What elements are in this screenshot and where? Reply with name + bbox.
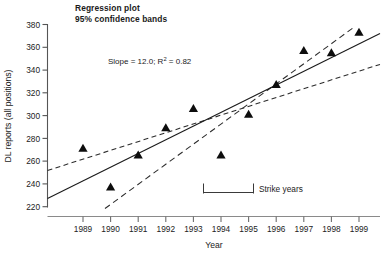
x-ticklabel: 1989	[74, 224, 93, 234]
y-ticklabel: 300	[26, 111, 40, 121]
x-ticklabel: 1994	[212, 224, 231, 234]
x-axis-ticks	[83, 217, 359, 223]
x-ticklabel: 1995	[239, 224, 258, 234]
regression-line	[48, 34, 381, 199]
legend-strike-years: Strike years	[204, 184, 303, 195]
data-point-marker	[299, 46, 308, 54]
x-ticklabel: 1998	[322, 224, 341, 234]
y-axis-ticks	[43, 25, 48, 207]
data-point-marker	[244, 110, 253, 118]
data-point-marker	[216, 151, 225, 159]
y-ticklabel: 340	[26, 65, 40, 75]
annotation-main: Slope = 12.0; R	[108, 57, 164, 66]
lower-confidence-band	[105, 27, 355, 209]
regression-plot-figure: Regression plot 95% confidence bands DL …	[0, 0, 392, 257]
y-axis: 380 360 340 320 300 280 260 240 220	[26, 20, 47, 212]
data-point-marker	[106, 182, 115, 190]
y-ticklabel: 360	[26, 42, 40, 52]
y-ticklabel: 380	[26, 20, 40, 30]
chart-title: Regression plot	[75, 3, 140, 13]
x-ticklabel: 1990	[101, 224, 120, 234]
y-axis-label: DL reports (all positions)	[3, 69, 13, 162]
x-ticklabel: 1992	[157, 224, 176, 234]
y-ticklabel: 320	[26, 88, 40, 98]
upper-confidence-band	[48, 64, 381, 170]
data-point-marker	[189, 104, 198, 112]
x-ticklabel: 1991	[129, 224, 148, 234]
x-axis-ticklabels: 1989 1990 1991 1992 1993 1994 1995 1996 …	[74, 224, 369, 234]
y-ticklabel: 280	[26, 134, 40, 144]
annotation-tail: = 0.82	[167, 57, 192, 66]
chart-subtitle: 95% confidence bands	[75, 14, 168, 24]
chart-canvas: Regression plot 95% confidence bands DL …	[0, 0, 392, 257]
legend-label-strike-years: Strike years	[259, 184, 303, 194]
x-ticklabel: 1997	[295, 224, 314, 234]
y-axis-ticklabels: 380 360 340 320 300 280 260 240 220	[26, 20, 40, 212]
data-point-marker	[327, 48, 336, 56]
slope-r2-annotation: Slope = 12.0; R2 = 0.82	[108, 56, 192, 66]
data-point-marker	[78, 144, 87, 152]
x-axis: 1989 1990 1991 1992 1993 1994 1995 1996 …	[48, 217, 381, 251]
data-point-marker	[161, 123, 170, 131]
y-ticklabel: 220	[26, 202, 40, 212]
x-ticklabel: 1996	[267, 224, 286, 234]
x-axis-label: Year	[205, 240, 223, 250]
y-ticklabel: 260	[26, 156, 40, 166]
x-ticklabel: 1993	[184, 224, 203, 234]
data-markers	[78, 28, 363, 191]
y-ticklabel: 240	[26, 179, 40, 189]
x-ticklabel: 1999	[350, 224, 369, 234]
data-point-marker	[354, 28, 363, 36]
